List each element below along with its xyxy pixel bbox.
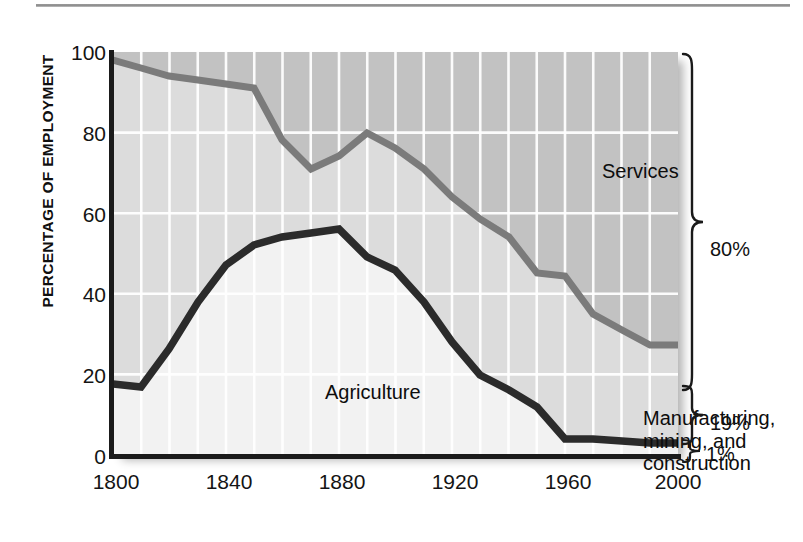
bracket-services-icon bbox=[680, 52, 706, 392]
bracket-manufacturing bbox=[680, 384, 706, 446]
y-axis-tick-labels: 100 80 60 40 20 0 bbox=[44, 0, 106, 542]
chart-figure: PERCENTAGE OF EMPLOYMENT 100 80 60 40 20… bbox=[0, 0, 803, 542]
top-divider-rule bbox=[36, 4, 790, 7]
y-axis-spine bbox=[109, 50, 114, 459]
x-axis-spine bbox=[109, 454, 681, 459]
right-bracket-group: 80% 19% 1% bbox=[680, 0, 803, 542]
annotation-agriculture: Agriculture bbox=[325, 381, 421, 404]
bracket-agriculture-icon bbox=[680, 438, 704, 464]
y-tick-100: 100 bbox=[46, 42, 106, 63]
y-tick-0: 0 bbox=[46, 446, 106, 467]
x-tick-1880: 1880 bbox=[297, 470, 387, 494]
y-tick-20: 20 bbox=[46, 365, 106, 386]
bracket-services-label: 80% bbox=[710, 238, 750, 261]
bracket-services bbox=[680, 52, 706, 392]
x-tick-1840: 1840 bbox=[184, 470, 274, 494]
x-tick-1800: 1800 bbox=[71, 470, 161, 494]
bracket-agriculture-label: 1% bbox=[706, 443, 735, 466]
x-tick-1920: 1920 bbox=[410, 470, 500, 494]
y-tick-40: 40 bbox=[46, 284, 106, 305]
plot-area: Services Agriculture Manufacturing, mini… bbox=[113, 52, 678, 455]
x-tick-1960: 1960 bbox=[523, 470, 613, 494]
bracket-manufacturing-icon bbox=[680, 384, 706, 446]
annotation-services: Services bbox=[602, 160, 679, 183]
y-tick-80: 80 bbox=[46, 123, 106, 144]
bracket-agriculture bbox=[680, 438, 704, 464]
bracket-manufacturing-label: 19% bbox=[710, 412, 750, 435]
y-tick-60: 60 bbox=[46, 204, 106, 225]
